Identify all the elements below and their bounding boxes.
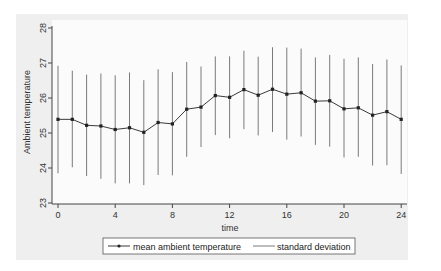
mean-marker (128, 126, 131, 129)
mean-marker (85, 124, 88, 127)
mean-marker (56, 118, 59, 121)
x-tick-label: 0 (55, 210, 60, 220)
mean-marker (142, 131, 145, 134)
x-axis-title: time (221, 223, 238, 233)
mean-marker (228, 96, 231, 99)
y-tick-label: 24 (38, 163, 48, 173)
mean-marker (342, 107, 345, 110)
mean-marker (271, 88, 274, 91)
legend: mean ambient temperature standard deviat… (103, 238, 355, 254)
mean-marker (114, 128, 117, 131)
y-tick-label: 25 (38, 128, 48, 138)
chart: 232425262728 04812162024 Ambient tempera… (0, 0, 441, 271)
x-tick-label: 8 (170, 210, 175, 220)
mean-marker (99, 124, 102, 127)
mean-marker (242, 88, 245, 91)
y-axis: 232425262728 (38, 23, 52, 208)
mean-marker (314, 100, 317, 103)
x-tick-label: 12 (225, 210, 235, 220)
mean-marker (357, 106, 360, 109)
x-tick-label: 20 (339, 210, 349, 220)
x-tick-label: 4 (113, 210, 118, 220)
mean-marker (371, 114, 374, 117)
legend-label-mean: mean ambient temperature (133, 242, 241, 252)
x-tick-label: 24 (396, 210, 406, 220)
y-tick-label: 28 (38, 23, 48, 33)
legend-label-sd: standard deviation (277, 242, 351, 252)
mean-marker (214, 94, 217, 97)
y-axis-title: Ambient temperature (22, 70, 32, 154)
mean-marker (71, 118, 74, 121)
mean-marker (257, 94, 260, 97)
x-tick-label: 16 (282, 210, 292, 220)
mean-marker (199, 106, 202, 109)
x-axis: 04812162024 (52, 204, 407, 220)
mean-marker (385, 110, 388, 113)
mean-marker (300, 91, 303, 94)
y-tick-label: 26 (38, 93, 48, 103)
mean-marker (185, 108, 188, 111)
mean-marker (285, 93, 288, 96)
legend-mean-marker-icon (117, 244, 120, 247)
mean-marker (328, 99, 331, 102)
mean-marker (400, 118, 403, 121)
y-tick-label: 27 (38, 58, 48, 68)
mean-marker (171, 122, 174, 125)
y-tick-label: 23 (38, 198, 48, 208)
mean-marker (157, 121, 160, 124)
